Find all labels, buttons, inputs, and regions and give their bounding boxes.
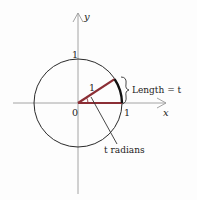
origin-label: 0	[72, 107, 78, 118]
y-tick-label-1: 1	[72, 49, 78, 60]
y-axis-label: y	[83, 11, 90, 22]
arc-length-label: Length = t	[132, 85, 182, 95]
diagram-canvas: y x 1 1 0 1 Length = t t radians	[0, 0, 197, 200]
angle-label: t radians	[104, 145, 145, 155]
x-tick-label-1: 1	[124, 107, 130, 118]
radius-label: 1	[89, 82, 95, 93]
unit-circle-diagram: y x 1 1 0 1 Length = t t radians	[0, 0, 197, 200]
x-axis-label: x	[163, 107, 169, 118]
arc-length-t	[115, 79, 122, 103]
radius-line-angled	[78, 79, 115, 103]
